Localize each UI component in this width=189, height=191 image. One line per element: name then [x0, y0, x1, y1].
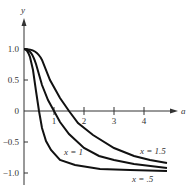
y-tick-label: 0.5: [8, 75, 20, 85]
y-tick-label: 0: [15, 106, 20, 116]
x-tick-label: 1: [52, 116, 57, 126]
curve-label-x1: x = 1: [63, 147, 83, 157]
chart: y a 1.0 0.5 0 −0.5 −1.0 1 2 3 4 x = 1 x …: [0, 0, 189, 191]
x-axis-arrow-icon: [170, 109, 178, 114]
x-axis-label: a: [181, 106, 186, 116]
x-tick-label: 4: [142, 116, 147, 126]
y-tick-label: −0.5: [3, 137, 20, 147]
y-tick-label: −1.0: [3, 168, 20, 178]
curve-label-x15: x = 1.5: [139, 146, 166, 156]
x-tick-label: 2: [82, 116, 87, 126]
x-ticks: 1 2 3 4: [52, 107, 147, 126]
y-axis-label: y: [20, 5, 25, 15]
y-axis-arrow-icon: [22, 18, 27, 26]
y-tick-label: 1.0: [8, 44, 20, 54]
x-tick-label: 3: [112, 116, 117, 126]
curve-label-x05: x = .5: [131, 174, 154, 184]
